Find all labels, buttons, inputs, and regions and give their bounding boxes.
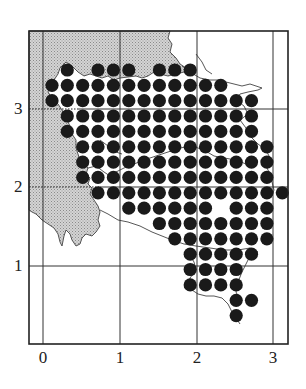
- occurrence-dot: [61, 94, 74, 107]
- occurrence-dot: [199, 186, 212, 199]
- occurrence-dot: [91, 109, 104, 122]
- occurrence-dot: [153, 171, 166, 184]
- occurrence-dot: [122, 140, 135, 153]
- occurrence-dot: [76, 109, 89, 122]
- occurrence-dot: [91, 125, 104, 138]
- occurrence-dot: [184, 125, 197, 138]
- occurrence-dot: [214, 140, 227, 153]
- occurrence-dot: [107, 140, 120, 153]
- occurrence-dot: [107, 186, 120, 199]
- occurrence-dot: [184, 202, 197, 215]
- occurrence-dot: [184, 94, 197, 107]
- occurrence-dot: [230, 109, 243, 122]
- occurrence-dot: [184, 263, 197, 276]
- occurrence-dot: [76, 94, 89, 107]
- occurrence-dot: [138, 202, 151, 215]
- occurrence-dot: [199, 109, 212, 122]
- occurrence-dot: [153, 109, 166, 122]
- occurrence-dot: [214, 217, 227, 230]
- occurrence-dot: [260, 156, 273, 169]
- occurrence-dot: [230, 309, 243, 322]
- occurrence-dot: [199, 278, 212, 291]
- occurrence-dot: [153, 156, 166, 169]
- occurrence-dot: [214, 171, 227, 184]
- occurrence-dot: [214, 232, 227, 245]
- occurrence-dot: [184, 171, 197, 184]
- occurrence-dot: [245, 171, 258, 184]
- occurrence-dot: [168, 63, 181, 76]
- occurrence-dot: [168, 217, 181, 230]
- occurrence-dot: [260, 140, 273, 153]
- occurrence-dot: [122, 94, 135, 107]
- y-tick-label-3: 3: [14, 100, 23, 117]
- occurrence-dot: [245, 202, 258, 215]
- occurrence-dot: [199, 125, 212, 138]
- occurrence-dot: [199, 248, 212, 261]
- occurrence-dot: [214, 156, 227, 169]
- occurrence-dot: [260, 186, 273, 199]
- occurrence-dot: [107, 156, 120, 169]
- occurrence-dot: [214, 79, 227, 92]
- occurrence-dot: [45, 94, 58, 107]
- occurrence-dot: [184, 278, 197, 291]
- occurrence-dot: [91, 140, 104, 153]
- occurrence-dot: [184, 217, 197, 230]
- occurrence-dot: [138, 109, 151, 122]
- occurrence-dot: [230, 171, 243, 184]
- x-tick-label-3: 3: [269, 349, 278, 366]
- occurrence-dot: [168, 171, 181, 184]
- occurrence-dot: [184, 232, 197, 245]
- occurrence-dot: [230, 248, 243, 261]
- occurrence-dot: [168, 140, 181, 153]
- occurrence-dot: [107, 94, 120, 107]
- occurrence-dot: [230, 156, 243, 169]
- occurrence-dot: [214, 263, 227, 276]
- occurrence-dot: [184, 186, 197, 199]
- occurrence-dot: [76, 79, 89, 92]
- occurrence-dot: [199, 156, 212, 169]
- occurrence-dot: [91, 171, 104, 184]
- occurrence-dot: [168, 125, 181, 138]
- occurrence-dot: [107, 79, 120, 92]
- occurrence-dot: [153, 217, 166, 230]
- occurrence-dot: [153, 202, 166, 215]
- occurrence-dot: [245, 186, 258, 199]
- occurrence-dot: [245, 125, 258, 138]
- occurrence-dot: [199, 79, 212, 92]
- occurrence-dot: [199, 202, 212, 215]
- occurrence-dot: [245, 109, 258, 122]
- occurrence-dot: [122, 63, 135, 76]
- occurrence-dot: [214, 125, 227, 138]
- occurrence-dot: [107, 125, 120, 138]
- occurrence-dot: [91, 186, 104, 199]
- occurrence-dot: [76, 171, 89, 184]
- occurrence-dot: [138, 186, 151, 199]
- occurrence-dot: [230, 278, 243, 291]
- occurrence-dot: [138, 94, 151, 107]
- occurrence-dot: [230, 186, 243, 199]
- occurrence-dot: [230, 125, 243, 138]
- occurrence-dot: [138, 79, 151, 92]
- occurrence-dot: [230, 232, 243, 245]
- occurrence-dot: [122, 125, 135, 138]
- occurrence-dot: [61, 125, 74, 138]
- occurrence-dot: [153, 125, 166, 138]
- occurrence-dot: [138, 140, 151, 153]
- occurrence-dot: [107, 171, 120, 184]
- occurrence-dot: [168, 109, 181, 122]
- occurrence-dot: [276, 186, 289, 199]
- x-tick-label-0: 0: [39, 349, 48, 366]
- occurrence-dot: [199, 217, 212, 230]
- occurrence-dot: [107, 109, 120, 122]
- occurrence-dot: [214, 248, 227, 261]
- occurrence-dot: [260, 202, 273, 215]
- x-tick-label-1: 1: [116, 349, 125, 366]
- occurrence-dot: [199, 171, 212, 184]
- occurrence-dot: [245, 232, 258, 245]
- occurrence-dot: [168, 79, 181, 92]
- occurrence-dot: [230, 217, 243, 230]
- occurrence-dot: [153, 186, 166, 199]
- y-tick-label-1: 1: [14, 257, 23, 274]
- occurrence-dot: [153, 94, 166, 107]
- occurrence-dot: [214, 186, 227, 199]
